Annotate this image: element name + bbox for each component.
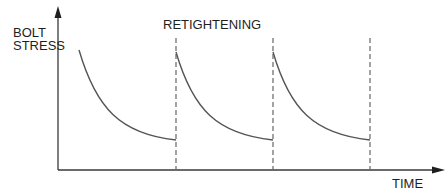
stress-decay-curve-3 [273,52,370,140]
retightening-label: RETIGHTENING [163,17,261,32]
stress-decay-curve-2 [176,52,273,140]
y-axis-arrow-icon [55,6,62,18]
bolt-stress-diagram: BOLT STRESS RETIGHTENING TIME [0,0,446,192]
y-axis-label-line-2: STRESS [13,38,65,53]
x-axis-label: TIME [392,176,423,191]
stress-decay-curve-1 [79,50,176,140]
x-axis-arrow-icon [432,167,445,174]
